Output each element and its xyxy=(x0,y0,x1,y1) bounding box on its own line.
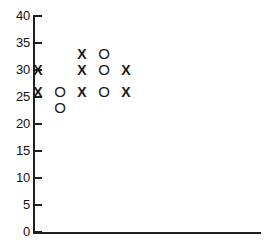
y-axis-tick-label-text: 15 xyxy=(2,144,30,157)
y-axis-tick-label: 15 xyxy=(0,144,30,157)
y-axis-tick-label-text: 10 xyxy=(2,171,30,184)
data-point-o: O xyxy=(53,101,67,115)
y-axis-tick-label-text: 40 xyxy=(2,9,30,22)
y-axis-tick-label: 5 xyxy=(0,198,30,211)
y-axis-tick-label: 35 xyxy=(0,36,30,49)
data-point-x: X xyxy=(75,85,89,99)
data-point-o: O xyxy=(53,85,67,99)
data-point-x: X xyxy=(119,63,133,77)
data-point-x: X xyxy=(31,85,45,99)
y-axis-tick-label-text: 5 xyxy=(2,198,30,211)
y-axis-tick-label-text: 20 xyxy=(2,117,30,130)
scatter-chart: 0510152025303540 XOXXOXXOXOXO xyxy=(0,0,264,243)
y-axis-tick-label: 40 xyxy=(0,9,30,22)
y-axis-tick xyxy=(35,177,42,179)
y-axis-tick-label: 25 xyxy=(0,90,30,103)
y-axis-tick xyxy=(35,42,42,44)
data-point-o: O xyxy=(97,47,111,61)
data-point-x: X xyxy=(75,47,89,61)
y-axis-tick-label-text: 0 xyxy=(2,225,30,238)
y-axis-tick-label-text: 35 xyxy=(2,36,30,49)
data-point-x: X xyxy=(119,85,133,99)
y-axis-tick xyxy=(35,123,42,125)
data-point-x: X xyxy=(31,63,45,77)
x-axis-line xyxy=(33,232,261,234)
y-axis-tick xyxy=(35,150,42,152)
y-axis-tick-label-text: 30 xyxy=(2,63,30,76)
y-axis-tick-label: 0 xyxy=(0,225,30,238)
y-axis-tick-label: 10 xyxy=(0,171,30,184)
y-axis-tick-label-text: 25 xyxy=(2,90,30,103)
data-point-x: X xyxy=(75,63,89,77)
y-axis-tick xyxy=(35,231,42,233)
y-axis-tick xyxy=(35,15,42,17)
y-axis-tick-label: 20 xyxy=(0,117,30,130)
data-point-o: O xyxy=(97,63,111,77)
y-axis-tick xyxy=(35,204,42,206)
data-point-o: O xyxy=(97,85,111,99)
y-axis-tick-label: 30 xyxy=(0,63,30,76)
